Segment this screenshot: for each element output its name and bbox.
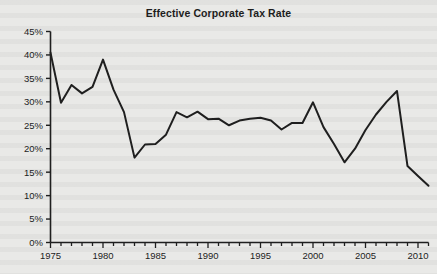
y-axis-tick-label: 20%	[24, 143, 44, 154]
y-axis: 0%5%10%15%20%25%30%35%40%45%	[24, 26, 51, 248]
tax-rate-line	[51, 53, 429, 186]
x-axis-tick-label: 2000	[302, 250, 323, 261]
x-axis-tick-label: 1990	[197, 250, 218, 261]
x-axis-tick-label: 2005	[355, 250, 376, 261]
x-axis-tick-label: 1995	[250, 250, 271, 261]
y-axis-tick-label: 45%	[24, 26, 44, 37]
y-axis-tick-label: 25%	[24, 120, 44, 131]
y-axis-tick-label: 30%	[24, 96, 44, 107]
x-axis: 19751980198519901995200020052010	[40, 243, 429, 262]
y-axis-tick-label: 15%	[24, 167, 44, 178]
y-axis-tick-label: 35%	[24, 73, 44, 84]
line-chart-plot-area: 0%5%10%15%20%25%30%35%40%45% 19751980198…	[0, 0, 437, 274]
chart-figure: Effective Corporate Tax Rate 0%5%10%15%2…	[0, 0, 437, 274]
y-axis-tick-label: 5%	[29, 213, 43, 224]
x-axis-tick-label: 1975	[40, 250, 61, 261]
x-axis-tick-label: 1985	[145, 250, 166, 261]
y-axis-tick-label: 0%	[29, 237, 43, 248]
data-series-line	[51, 53, 429, 186]
y-axis-tick-label: 10%	[24, 190, 44, 201]
y-axis-tick-label: 40%	[24, 49, 44, 60]
x-axis-tick-label: 2010	[407, 250, 428, 261]
x-axis-tick-label: 1980	[92, 250, 113, 261]
